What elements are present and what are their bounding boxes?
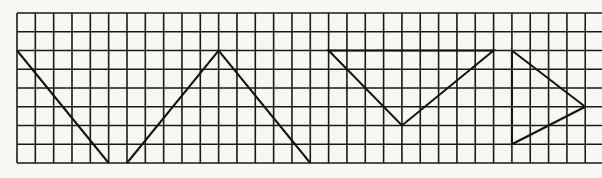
grid-diagram <box>0 0 602 178</box>
